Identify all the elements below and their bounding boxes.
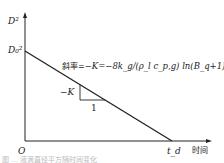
- slope-formula: −K=−8k_g/(ρ_l c_p,g) ln(B_q+1): [85, 61, 224, 71]
- triangle-run-label: 1: [91, 104, 97, 113]
- y-axis-arrow-icon: [23, 12, 27, 18]
- x-axis-arrow-icon: [206, 139, 212, 143]
- y-axis-label: D²: [8, 17, 19, 26]
- d2-law-plot: [0, 0, 224, 163]
- triangle-rise-label: −K: [60, 88, 74, 97]
- slope-annotation: 斜率=−K=−8k_g/(ρ_l c_p,g) ln(B_q+1): [62, 62, 224, 71]
- figure-caption: 图 … 液滴直径平方随时间变化: [2, 154, 97, 163]
- x-end-label: t_d: [167, 147, 181, 156]
- slope-prefix: 斜率=: [62, 62, 85, 71]
- x-axis-label: 时间: [192, 147, 208, 155]
- y-intercept-label: D₀²: [8, 46, 22, 55]
